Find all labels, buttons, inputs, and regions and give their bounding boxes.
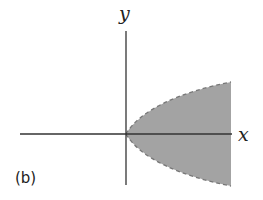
x-axis-label: x bbox=[238, 123, 249, 145]
diagram: y x (b) bbox=[0, 0, 263, 200]
figure-label: (b) bbox=[15, 169, 36, 187]
y-axis-label: y bbox=[118, 2, 130, 24]
